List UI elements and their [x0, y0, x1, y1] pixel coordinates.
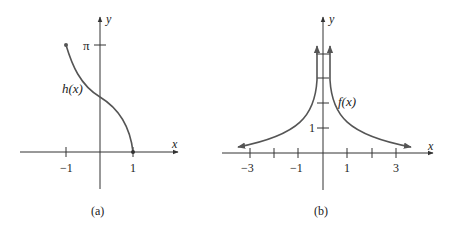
tick-label-3: 3 — [393, 161, 399, 175]
panel-a: y x π −1 1 h(x) (a) — [20, 12, 178, 218]
tick-label-1: 1 — [344, 161, 350, 175]
tick-label-y1: 1 — [309, 121, 315, 135]
f-curve-left — [238, 46, 317, 147]
caption-a: (a) — [91, 204, 104, 218]
endpoint-right — [131, 150, 135, 154]
panel-b: y x −3 −1 1 3 1 f(x) (b) — [222, 12, 434, 218]
caption-b: (b) — [314, 204, 328, 218]
tick-label-neg1: −1 — [290, 161, 303, 175]
y-label: y — [105, 12, 112, 26]
x-label: x — [427, 139, 434, 153]
y-label: y — [328, 12, 335, 26]
tick-label-neg1: −1 — [60, 161, 73, 175]
tick-label-1: 1 — [130, 161, 136, 175]
figure: y x π −1 1 h(x) (a) y x −3 −1 1 — [0, 0, 450, 231]
function-label: f(x) — [338, 94, 356, 109]
x-label: x — [171, 137, 178, 151]
pi-label: π — [83, 38, 90, 53]
function-label: h(x) — [62, 81, 83, 96]
tick-label-neg3: −3 — [241, 161, 254, 175]
endpoint-left — [64, 43, 68, 47]
